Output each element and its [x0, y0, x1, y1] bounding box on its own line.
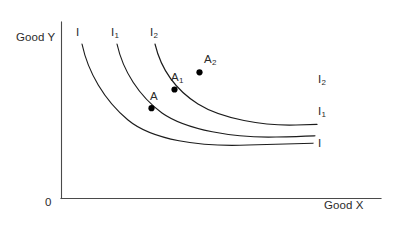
point-label-A1-sub: 1 [179, 76, 183, 85]
indifference-curve-I [82, 44, 313, 145]
origin-label: 0 [45, 197, 51, 209]
curve-top-label-I-text: I [76, 26, 79, 38]
point-label-A2-sub: 2 [212, 58, 216, 67]
point-label-A1: A1 [171, 72, 183, 84]
curve-top-label-I1-text: I [111, 26, 114, 38]
curve-right-label-I-text: I [318, 137, 321, 149]
curve-right-label-I2-text: I [318, 73, 321, 85]
curve-right-label-I1: I1 [318, 106, 326, 118]
curve-top-label-I: I [76, 27, 79, 39]
y-axis-title: Good Y [16, 32, 55, 44]
point-label-A2-text: A [204, 53, 212, 65]
curve-top-label-I2: I2 [150, 27, 158, 39]
x-axis-title: Good X [324, 200, 364, 212]
data-point-A2 [196, 69, 202, 75]
curve-right-label-I2-sub: 2 [322, 78, 326, 87]
curve-right-label-I: I [318, 138, 321, 150]
curve-right-label-I1-sub: 1 [322, 110, 326, 119]
curve-top-label-I1-sub: 1 [115, 31, 119, 40]
data-point-A [148, 105, 154, 111]
curve-top-label-I2-sub: 2 [154, 31, 158, 40]
curve-right-label-I2: I2 [318, 74, 326, 86]
curve-top-label-I2-text: I [150, 26, 153, 38]
point-label-A2: A2 [204, 54, 216, 66]
indifference-curve-figure: Good Y Good X 0 I I1 I2 I2 I1 I A A1 A2 [0, 0, 393, 230]
point-label-A-text: A [150, 90, 158, 102]
data-point-A1 [171, 86, 177, 92]
plot-area [0, 0, 393, 230]
point-label-A1-text: A [171, 71, 179, 83]
point-label-A: A [150, 91, 158, 103]
curve-top-label-I1: I1 [111, 27, 119, 39]
curve-right-label-I1-text: I [318, 105, 321, 117]
